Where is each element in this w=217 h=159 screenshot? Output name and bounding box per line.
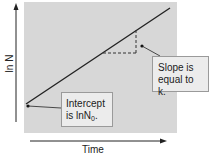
slope-callout-line1: Slope is xyxy=(158,62,204,74)
trend-line xyxy=(26,8,170,104)
intercept-text: is lnN xyxy=(66,110,91,121)
slope-callout-line2: equal to k. xyxy=(158,74,204,98)
x-axis-arrow-icon xyxy=(160,139,167,144)
intercept-callout: Intercept is lnN0. xyxy=(61,92,113,127)
x-axis-label: Time xyxy=(82,144,104,155)
x-axis xyxy=(30,139,167,144)
intercept-leader xyxy=(26,104,61,108)
y-axis-arrow-icon xyxy=(14,3,19,10)
intercept-period: . xyxy=(95,110,98,121)
slope-callout: Slope is equal to k. xyxy=(152,56,209,92)
intercept-callout-line1: Intercept xyxy=(66,98,108,110)
y-axis-label: ln N xyxy=(4,52,15,76)
slope-leader xyxy=(140,44,160,56)
intercept-callout-line2: is lnN0. xyxy=(66,110,108,125)
